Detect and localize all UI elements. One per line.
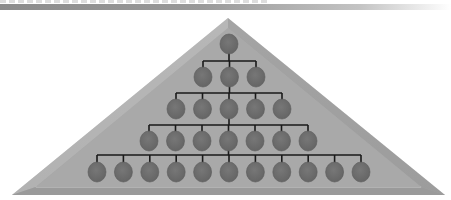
node-level-5 bbox=[88, 162, 106, 182]
node-level-2 bbox=[247, 67, 265, 87]
node-level-3 bbox=[167, 99, 185, 119]
node-level-4 bbox=[299, 131, 317, 151]
hierarchy-pyramid-diagram bbox=[0, 0, 451, 200]
node-level-4 bbox=[140, 131, 158, 151]
node-level-3 bbox=[247, 99, 265, 119]
node-level-4 bbox=[246, 131, 264, 151]
node-level-4 bbox=[167, 131, 185, 151]
node-level-5 bbox=[326, 162, 344, 182]
node-level-4 bbox=[273, 131, 291, 151]
node-level-5 bbox=[220, 162, 238, 182]
node-level-5 bbox=[194, 162, 212, 182]
node-level-5 bbox=[273, 162, 291, 182]
pyramid-bevel-bottom bbox=[12, 187, 445, 195]
node-level-3 bbox=[220, 99, 238, 119]
node-level-3 bbox=[194, 99, 212, 119]
node-level-4 bbox=[220, 131, 238, 151]
node-level-2 bbox=[221, 67, 239, 87]
node-level-5 bbox=[141, 162, 159, 182]
node-level-2 bbox=[194, 67, 212, 87]
node-level-5 bbox=[352, 162, 370, 182]
node-level-5 bbox=[167, 162, 185, 182]
node-level-5 bbox=[299, 162, 317, 182]
node-level-1 bbox=[220, 34, 238, 54]
node-level-4 bbox=[193, 131, 211, 151]
node-level-3 bbox=[273, 99, 291, 119]
node-level-5 bbox=[246, 162, 264, 182]
node-level-5 bbox=[114, 162, 132, 182]
